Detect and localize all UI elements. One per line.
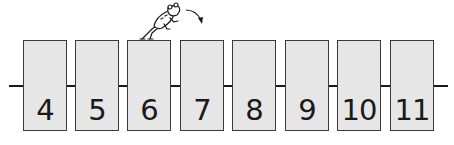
number-card-11: 11 (390, 40, 434, 131)
number-card-4: 4 (23, 40, 67, 131)
card-number: 10 (338, 90, 380, 130)
number-card-9: 9 (285, 40, 329, 131)
card-number: 7 (181, 90, 223, 130)
card-number: 9 (286, 90, 328, 130)
number-card-6: 6 (127, 40, 171, 131)
card-number: 4 (24, 90, 66, 130)
number-line-diagram: 4 5 6 7 8 9 10 11 (0, 0, 454, 145)
card-number: 8 (233, 90, 275, 130)
card-number: 5 (76, 90, 118, 130)
jumping-frog-icon (134, 2, 214, 42)
number-card-5: 5 (75, 40, 119, 131)
card-number: 11 (391, 90, 433, 130)
card-number: 6 (128, 90, 170, 130)
number-card-8: 8 (232, 40, 276, 131)
number-card-7: 7 (180, 40, 224, 131)
number-card-10: 10 (337, 40, 381, 131)
